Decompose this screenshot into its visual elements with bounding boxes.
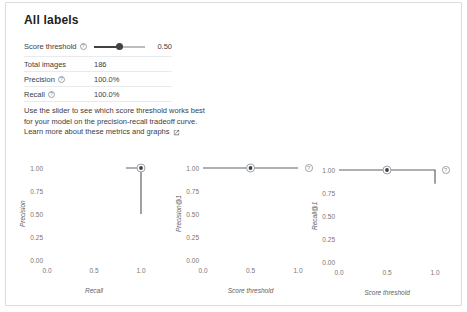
x-tick-label: 0.5 xyxy=(84,267,104,274)
y-tick-label: 0.75 xyxy=(315,190,335,197)
precision-help-icon[interactable]: ? xyxy=(58,76,65,83)
x-tick-label: 0.0 xyxy=(193,267,213,274)
x-axis-label: Recall xyxy=(47,287,141,294)
total-images-value: 186 xyxy=(94,60,107,69)
x-axis-label: Score threshold xyxy=(203,287,298,294)
y-tick-label: 0.75 xyxy=(23,188,43,195)
precision-label-group: Precision ? xyxy=(24,75,94,84)
threshold-marker xyxy=(139,166,143,170)
precision-label: Precision xyxy=(24,75,55,84)
y-tick-label: 1.00 xyxy=(315,167,335,174)
y-tick-label: 1.00 xyxy=(23,165,43,172)
chart-plot xyxy=(339,170,435,262)
x-tick-label: 1.0 xyxy=(425,269,445,276)
score-threshold-help-icon[interactable]: ? xyxy=(80,43,87,50)
total-images-label: Total images xyxy=(24,60,66,69)
description-text: Use the slider to see which score thresh… xyxy=(24,106,254,138)
recall-label-group: Recall ? xyxy=(24,90,94,99)
recall-help-icon[interactable]: ? xyxy=(48,91,55,98)
score-threshold-slider[interactable] xyxy=(94,42,145,52)
metrics-table: Score threshold ? 0.50 Total images 186 … xyxy=(24,37,172,102)
recall-label: Recall xyxy=(24,90,45,99)
x-tick-label: 1.0 xyxy=(288,267,308,274)
x-tick-label: 1.0 xyxy=(131,267,151,274)
total-images-row: Total images 186 xyxy=(24,57,172,72)
description-line-2: for your model on the precision-recall t… xyxy=(24,117,254,128)
y-tick-label: 0.50 xyxy=(179,211,199,218)
learn-more-link-text: Learn more about these metrics and graph… xyxy=(24,127,170,138)
precision-row: Precision ? 100.0% xyxy=(24,72,172,87)
x-tick-label: 0.5 xyxy=(241,267,261,274)
score-threshold-value: 0.50 xyxy=(157,42,172,51)
score-threshold-label: Score threshold xyxy=(24,42,77,51)
all-labels-card: All labels Score threshold ? 0.50 Total … xyxy=(5,2,462,306)
y-tick-label: 0.25 xyxy=(315,236,335,243)
x-tick-label: 0.5 xyxy=(377,269,397,276)
precision-value: 100.0% xyxy=(94,75,119,84)
score-threshold-label-group: Score threshold ? xyxy=(24,42,94,51)
external-link-icon xyxy=(173,129,180,136)
slider-handle[interactable] xyxy=(116,43,123,50)
total-images-label-group: Total images xyxy=(24,60,94,69)
y-tick-label: 0.50 xyxy=(315,213,335,220)
score-threshold-row: Score threshold ? 0.50 xyxy=(24,37,172,57)
chart-plot xyxy=(203,168,298,260)
page-title: All labels xyxy=(24,13,79,27)
y-tick-label: 0.25 xyxy=(179,234,199,241)
x-tick-label: 0.0 xyxy=(329,269,349,276)
x-tick-label: 0.0 xyxy=(37,267,57,274)
threshold-marker xyxy=(249,166,253,170)
y-tick-label: 1.00 xyxy=(179,165,199,172)
y-tick-label: 0.75 xyxy=(179,188,199,195)
metric-curve xyxy=(126,168,141,214)
threshold-marker xyxy=(385,168,389,172)
y-tick-label: 0.00 xyxy=(23,257,43,264)
learn-more-link[interactable]: Learn more about these metrics and graph… xyxy=(24,127,180,138)
y-tick-label: 0.25 xyxy=(23,234,43,241)
description-line-1: Use the slider to see which score thresh… xyxy=(24,106,254,117)
y-tick-label: 0.00 xyxy=(179,257,199,264)
x-axis-label: Score threshold xyxy=(339,289,435,296)
y-tick-label: 0.50 xyxy=(23,211,43,218)
chart-plot xyxy=(47,168,141,260)
recall-value: 100.0% xyxy=(94,90,119,99)
y-tick-label: 0.00 xyxy=(315,259,335,266)
chart-help-icon[interactable]: ? xyxy=(442,166,450,174)
recall-row: Recall ? 100.0% xyxy=(24,87,172,102)
